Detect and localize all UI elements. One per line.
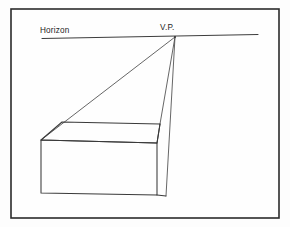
perspective-diagram-page: Horizon V.P.: [0, 0, 290, 227]
horizon-label: Horizon: [40, 26, 70, 35]
box-top-face: [41, 122, 160, 143]
box-front-face: [41, 140, 157, 195]
perspective-diagram: Horizon V.P.: [0, 0, 290, 227]
vanishing-point-label: V.P.: [160, 23, 174, 32]
vanishing-point-marker: [174, 36, 176, 38]
